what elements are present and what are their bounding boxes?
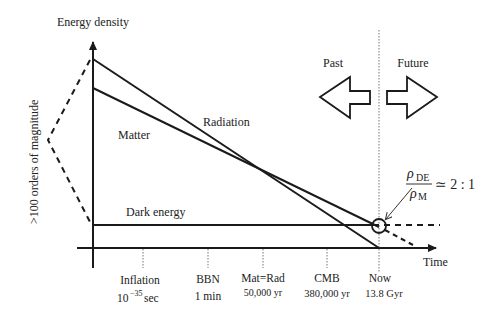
svg-text:1 min: 1 min	[195, 290, 222, 302]
x-axis-label: Time	[423, 255, 448, 269]
ratio-numerator-sub: DE	[416, 172, 429, 183]
svg-text:Mat=Rad: Mat=Rad	[241, 272, 285, 284]
matter-label: Matter	[118, 128, 150, 142]
future-arrow-icon	[387, 77, 437, 118]
past-label: Past	[323, 56, 344, 70]
svg-text:Inflation: Inflation	[120, 274, 160, 286]
tick-marks	[143, 249, 327, 268]
svg-text:Now: Now	[369, 272, 392, 284]
ratio-denominator-sub: M	[418, 191, 427, 202]
past-arrow-icon	[320, 77, 370, 118]
ratio-denominator-symbol: ρ	[409, 186, 417, 201]
tick-label-cmb: CMB 380,000 yr	[304, 272, 350, 299]
tick-label-bbn: BBN 1 min	[195, 273, 222, 302]
future-label: Future	[397, 56, 428, 70]
radiation-label: Radiation	[203, 115, 250, 129]
svg-text:BBN: BBN	[196, 273, 220, 285]
ratio-numerator-symbol: ρ	[406, 166, 414, 181]
magnitude-bracket	[48, 60, 90, 222]
ratio-annotation: ρ DE ρ M ≃ 2 : 1	[406, 166, 475, 202]
svg-text:380,000 yr: 380,000 yr	[304, 288, 350, 299]
svg-text:CMB: CMB	[314, 272, 340, 284]
svg-text:50,000 yr: 50,000 yr	[244, 287, 283, 298]
ratio-value: ≃ 2 : 1	[435, 177, 475, 192]
tick-label-now: Now 13.8 Gyr	[365, 272, 403, 299]
matter-future-dashed	[385, 230, 413, 245]
tick-label-inflation: Inflation 10 −35 sec	[117, 274, 160, 304]
tick-label-mat-rad: Mat=Rad 50,000 yr	[241, 272, 285, 298]
svg-text:13.8 Gyr: 13.8 Gyr	[365, 288, 403, 299]
svg-text:−35: −35	[130, 289, 143, 298]
energy-density-diagram: Energy density Time Radiation Matter Dar…	[0, 0, 496, 317]
svg-text:sec: sec	[144, 292, 159, 304]
magnitude-label: >100 orders of magnitude	[27, 100, 41, 224]
ratio-pointer-arrow	[386, 188, 412, 219]
y-axis-label: Energy density	[57, 15, 129, 29]
svg-text:10: 10	[117, 292, 129, 304]
dark-energy-label: Dark energy	[126, 205, 185, 219]
